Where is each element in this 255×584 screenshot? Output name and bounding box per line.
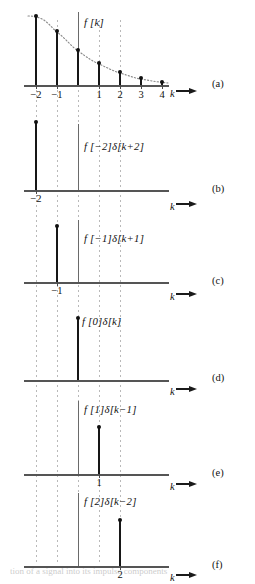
panel-c: −1 k f [−1]δ[k+1] (c)	[0, 200, 245, 290]
tick-label-k-three: 3	[131, 90, 151, 101]
panel-c-stem-k-minus1	[56, 226, 58, 282]
panel-f-expression: f [2]δ[k−2]	[84, 495, 137, 507]
panel-b-expression: f [−2]δ[k+2]	[84, 140, 144, 152]
panel-a-axis-arrow-line	[176, 90, 190, 92]
panel-f-stem-k-two	[119, 520, 121, 566]
panel-f-y-axis	[78, 493, 79, 566]
stem-k-one	[98, 63, 100, 85]
panel-b-x-axis	[24, 190, 169, 192]
panel-a-axis-arrow-head	[189, 88, 197, 94]
panel-d-label: (d)	[212, 372, 224, 383]
panel-e: 1 k f [1]δ[k−1] (e)	[0, 385, 245, 480]
panel-e-stem-tip	[97, 425, 101, 429]
panel-a-axis-label: k	[170, 89, 175, 100]
panel-c-expression: f [−1]δ[k+1]	[84, 232, 144, 244]
panel-e-y-axis	[78, 401, 79, 474]
panel-d-stem-tip	[76, 316, 80, 320]
panel-a: −2 −1 1 2 3 4 k f [k] (a)	[0, 0, 245, 100]
panel-f-stem-tip	[118, 518, 122, 522]
panel-b-stem-tip	[34, 120, 38, 124]
panel-b-stem-k-minus2	[35, 122, 37, 190]
panel-d: k f [0]δ[k] (d)	[0, 290, 245, 385]
tick-label-k-minus2: −2	[26, 90, 46, 101]
panel-d-stem-k-zero	[77, 318, 79, 380]
panel-d-expression: f [0]δ[k]	[82, 315, 122, 327]
panel-e-expression: f [1]δ[k−1]	[84, 403, 137, 415]
panel-e-stem-k-one	[98, 427, 100, 474]
stem-k-minus2	[35, 16, 37, 85]
panel-c-x-axis	[24, 282, 169, 284]
tick-label-k-minus1: −1	[47, 90, 67, 101]
panel-b-label: (b)	[212, 183, 224, 194]
tick-label-k-one: 1	[89, 90, 109, 101]
stem-k-zero	[77, 50, 79, 85]
bottom-caption: tion of a signal into its impulse compon…	[10, 566, 255, 576]
panel-a-label: (a)	[212, 78, 224, 89]
panel-b-y-axis	[78, 124, 79, 190]
stem-k-minus1	[56, 31, 58, 85]
panel-d-x-axis	[24, 380, 169, 382]
panel-b: −2 k f [−2]δ[k+2] (b)	[0, 110, 245, 200]
panel-c-y-axis	[78, 220, 79, 282]
panel-f: 2 k f [2]δ[k−2] (f)	[0, 475, 245, 570]
panel-a-x-axis	[24, 85, 169, 87]
panel-c-label: (c)	[212, 275, 224, 286]
tick-label-k-two: 2	[110, 90, 130, 101]
panel-c-stem-tip	[55, 224, 59, 228]
panel-a-expression: f [k]	[84, 16, 104, 28]
tick-label-k-four: 4	[152, 90, 172, 101]
